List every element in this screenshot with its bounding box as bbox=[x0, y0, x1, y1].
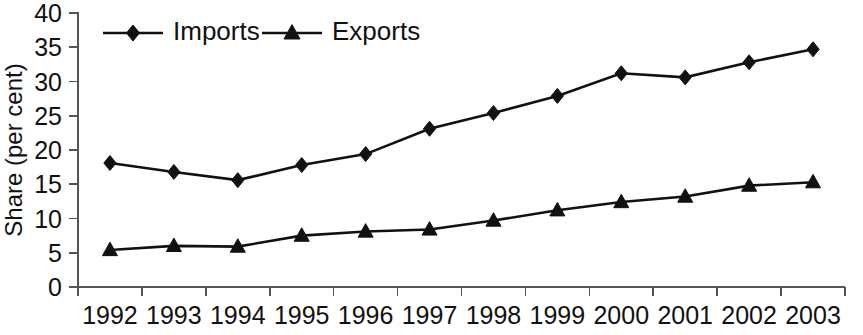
data-point-marker bbox=[806, 174, 821, 188]
data-point-marker bbox=[615, 66, 627, 81]
x-tick-label: 2003 bbox=[785, 301, 841, 329]
data-point-marker bbox=[807, 42, 819, 57]
y-tick-label: 35 bbox=[34, 33, 62, 61]
data-point-marker bbox=[168, 164, 180, 179]
x-tick-label: 2000 bbox=[593, 301, 649, 329]
data-point-marker bbox=[104, 156, 116, 171]
x-tick-label: 1997 bbox=[402, 301, 458, 329]
y-tick-label: 30 bbox=[34, 68, 62, 96]
x-tick-label: 1995 bbox=[274, 301, 330, 329]
data-point-marker bbox=[126, 25, 139, 41]
x-tick-label: 1998 bbox=[466, 301, 522, 329]
y-tick-label: 20 bbox=[34, 136, 62, 164]
legend-label-exports: Exports bbox=[332, 16, 420, 46]
y-tick-label: 10 bbox=[34, 205, 62, 233]
data-point-marker bbox=[551, 88, 563, 103]
y-axis: 0510152025303540 bbox=[34, 0, 78, 301]
data-point-marker bbox=[679, 70, 691, 85]
y-tick-label: 0 bbox=[48, 273, 62, 301]
series-line-imports bbox=[110, 49, 813, 180]
y-tick-label: 40 bbox=[34, 0, 62, 27]
legend-entry-imports[interactable]: Imports bbox=[103, 16, 260, 46]
series-exports bbox=[102, 174, 820, 255]
y-axis-title: Share (per cent) bbox=[0, 63, 27, 236]
data-point-marker bbox=[232, 173, 244, 188]
y-tick-label: 5 bbox=[48, 239, 62, 267]
data-point-marker bbox=[423, 121, 435, 136]
x-tick-label: 2001 bbox=[657, 301, 713, 329]
legend-label-imports: Imports bbox=[173, 16, 260, 46]
y-tick-label: 25 bbox=[34, 102, 62, 130]
x-tick-label: 1999 bbox=[530, 301, 586, 329]
series-line-exports bbox=[110, 182, 813, 250]
line-chart: 0510152025303540Share (per cent)19921993… bbox=[0, 0, 863, 335]
series-imports bbox=[104, 42, 819, 188]
x-tick-label: 1994 bbox=[210, 301, 266, 329]
chart-canvas: 0510152025303540Share (per cent)19921993… bbox=[0, 0, 863, 335]
data-point-marker bbox=[296, 158, 308, 173]
data-point-marker bbox=[743, 55, 755, 70]
y-tick-label: 15 bbox=[34, 170, 62, 198]
data-point-marker bbox=[487, 106, 499, 121]
x-tick-label: 2002 bbox=[721, 301, 777, 329]
data-point-marker bbox=[359, 147, 371, 162]
x-tick-label: 1992 bbox=[82, 301, 138, 329]
chart-legend: ImportsExports bbox=[103, 16, 420, 46]
legend-entry-exports[interactable]: Exports bbox=[262, 16, 420, 46]
x-tick-label: 1996 bbox=[338, 301, 394, 329]
x-axis: 1992199319941995199619971998199920002001… bbox=[78, 287, 845, 329]
x-tick-label: 1993 bbox=[146, 301, 202, 329]
